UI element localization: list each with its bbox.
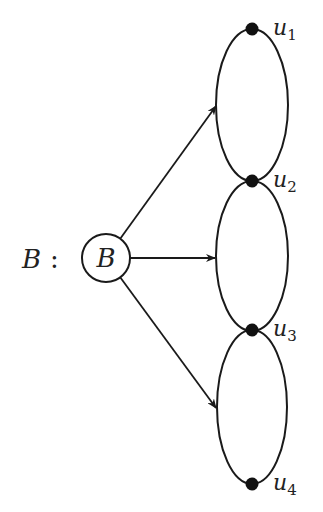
diagram-canvas: B: B u1u2u3u4 — [0, 0, 323, 512]
arrows — [120, 106, 216, 408]
source-node-b: B — [82, 234, 130, 282]
vertex-u4: u4 — [246, 470, 297, 499]
vertex-label: u3 — [273, 316, 297, 345]
vertices: u1u2u3u4 — [246, 15, 297, 499]
vertex-label: u1 — [273, 15, 297, 44]
edge-ellipse-3 — [217, 330, 287, 484]
vertex-label: u2 — [273, 167, 297, 196]
arrow-3 — [120, 277, 216, 408]
vertex-dot — [246, 478, 259, 491]
vertex-dot — [246, 23, 259, 36]
arrow-1 — [120, 106, 216, 239]
edge-ellipses — [216, 29, 288, 484]
vertex-label: u4 — [273, 470, 297, 499]
source-node-label: B — [95, 243, 115, 273]
vertex-dot — [246, 175, 259, 188]
diagram-label: B: — [21, 244, 59, 274]
edge-ellipse-2 — [216, 181, 288, 331]
edge-ellipse-1 — [216, 29, 288, 181]
vertex-dot — [246, 324, 259, 337]
